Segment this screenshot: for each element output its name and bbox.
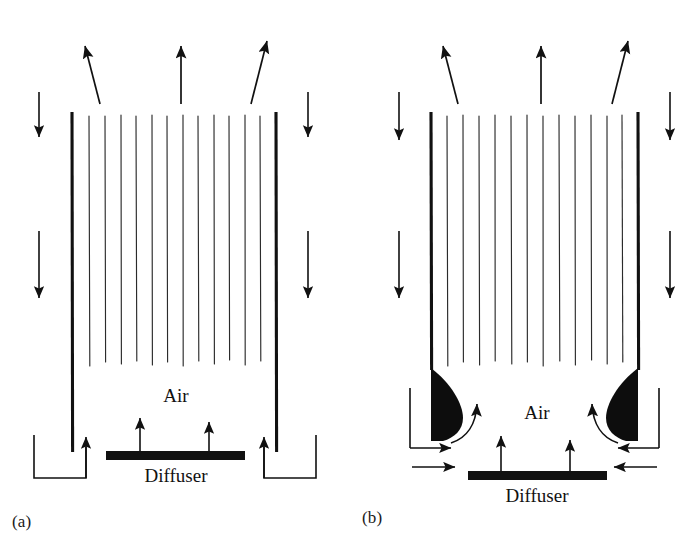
diffuser-label: Diffuser bbox=[145, 465, 209, 486]
column-wall-right bbox=[638, 112, 639, 370]
panel-b: Air Diffuser (b) bbox=[350, 0, 699, 556]
diffuser-label: Diffuser bbox=[506, 485, 570, 506]
exit-arrow-right bbox=[612, 41, 628, 104]
diffuser-bar bbox=[106, 451, 245, 460]
exit-arrow-left bbox=[443, 46, 458, 104]
dead-zone-wedge-left bbox=[431, 368, 463, 441]
panel-b-diagram: Air Diffuser bbox=[350, 0, 699, 556]
panel-a: Air Diffuser (a) bbox=[0, 0, 349, 556]
collector-channel-left bbox=[34, 435, 86, 478]
exit-arrow-right bbox=[251, 41, 267, 104]
column-wall-left bbox=[431, 112, 432, 370]
bubble-curtain-lines bbox=[447, 115, 623, 366]
panel-a-diagram: Air Diffuser bbox=[0, 0, 349, 556]
collector-channel-right bbox=[264, 435, 316, 478]
air-label: Air bbox=[163, 385, 189, 406]
column-wall-right bbox=[276, 112, 277, 452]
air-label: Air bbox=[524, 402, 550, 423]
exit-arrow-left bbox=[85, 46, 100, 104]
column-wall-left bbox=[72, 112, 73, 452]
bubble-curtain-lines bbox=[89, 115, 261, 366]
figure-root: Air Diffuser (a) bbox=[0, 0, 699, 556]
panel-a-caption: (a) bbox=[12, 512, 31, 532]
dead-zone-wedge-right bbox=[606, 368, 638, 441]
panel-b-caption: (b) bbox=[362, 508, 382, 528]
diffuser-bar bbox=[468, 471, 607, 480]
